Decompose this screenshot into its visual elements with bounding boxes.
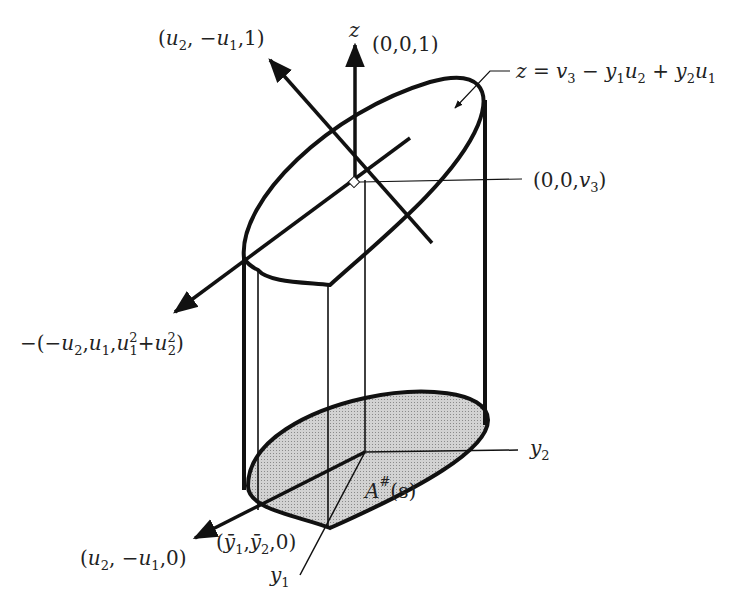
center-point-label: (0,0,v3) [533, 168, 606, 195]
normal-vector-label: (u2, −u1,1) [158, 26, 265, 53]
base-vector-label: (u2, −u1,0) [80, 546, 187, 573]
base-point-label: (ȳ1,ȳ2,0) [216, 530, 296, 557]
z-axis-label: z [348, 18, 360, 42]
y1-axis-label: y1 [269, 563, 290, 590]
region-label: A#(s) [363, 474, 416, 503]
y2-axis-label: y2 [529, 436, 550, 463]
plane-line-diagonal [270, 60, 432, 243]
neg-vector-label: −(−u2,u1,u21+u22) [20, 330, 184, 358]
cylinder-diagram: (u2, −u1,1) z (0,0,1) z = v3 − y1u2 + y2… [0, 0, 744, 606]
z-unit-label: (0,0,1) [372, 32, 439, 56]
base-region [248, 392, 488, 528]
plane-equation-label: z = v3 − y1u2 + y2u1 [515, 59, 716, 86]
